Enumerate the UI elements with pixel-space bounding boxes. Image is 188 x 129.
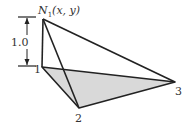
- diagram-svg: 1.0 N1(x, y) 1 2 3: [0, 0, 188, 129]
- edge-apex-2: [43, 19, 79, 108]
- node-label-3: 3: [175, 85, 182, 98]
- dimension-arrow-down-icon: [25, 59, 30, 65]
- node-label-2: 2: [75, 112, 82, 125]
- node-label-1: 1: [34, 63, 41, 76]
- edge-apex-1: [42, 19, 43, 67]
- dimension-label: 1.0: [11, 36, 29, 49]
- apex-label: N1(x, y): [37, 4, 80, 19]
- tetrahedron-shape-function-diagram: 1.0 N1(x, y) 1 2 3: [0, 0, 188, 129]
- dimension-arrow-up-icon: [25, 18, 30, 24]
